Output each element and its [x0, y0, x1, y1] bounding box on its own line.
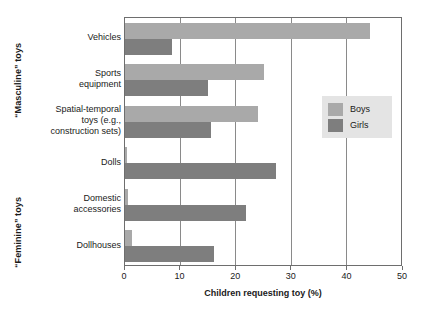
gridline — [291, 18, 292, 265]
x-tick-mark — [290, 266, 291, 270]
x-tick-label: 20 — [230, 271, 240, 281]
category-label: Vehicles — [13, 32, 121, 43]
category-label: Sports equipment — [13, 68, 121, 90]
plot-area — [124, 17, 402, 266]
x-tick-label: 50 — [397, 271, 407, 281]
category-label: Domestic accessories — [13, 193, 121, 215]
gridline — [346, 18, 347, 265]
legend-swatch-girls-icon — [328, 119, 343, 132]
x-axis-title: Children requesting toy (%) — [124, 288, 402, 298]
x-tick-mark — [346, 266, 347, 270]
bar-girls — [125, 246, 214, 262]
bar-boys — [125, 23, 370, 39]
gridline — [180, 18, 181, 265]
gridline — [235, 18, 236, 265]
x-tick-label: 40 — [341, 271, 351, 281]
category-label: Spatial-temporal toys (e.g., constructio… — [13, 104, 121, 137]
bar-girls — [125, 163, 276, 179]
bar-boys — [125, 189, 128, 205]
legend-label-girls: Girls — [350, 120, 369, 130]
bar-boys — [125, 230, 132, 246]
legend-label-boys: Boys — [350, 104, 370, 114]
x-tick-mark — [179, 266, 180, 270]
category-label: Dolls — [13, 157, 121, 168]
x-tick-label: 10 — [175, 271, 185, 281]
bar-chart: “Masculine” toys “Feminine” toys Vehicle… — [0, 0, 422, 314]
bar-boys — [125, 147, 127, 163]
chart-legend: Boys Girls — [322, 96, 392, 138]
bar-girls — [125, 205, 246, 221]
legend-swatch-boys-icon — [328, 103, 343, 116]
x-tick-label: 0 — [121, 271, 126, 281]
category-axis-labels: VehiclesSports equipmentSpatial-temporal… — [14, 0, 121, 314]
x-tick-mark — [124, 266, 125, 270]
x-tick-label: 30 — [286, 271, 296, 281]
legend-entry-boys: Boys — [328, 101, 386, 117]
bar-boys — [125, 106, 258, 122]
bar-boys — [125, 64, 264, 80]
bar-girls — [125, 122, 211, 138]
plot-inner — [125, 18, 401, 265]
bar-girls — [125, 80, 208, 96]
bar-girls — [125, 39, 172, 55]
x-tick-mark — [235, 266, 236, 270]
x-tick-mark — [402, 266, 403, 270]
category-label: Dollhouses — [13, 240, 121, 251]
legend-entry-girls: Girls — [328, 117, 386, 133]
